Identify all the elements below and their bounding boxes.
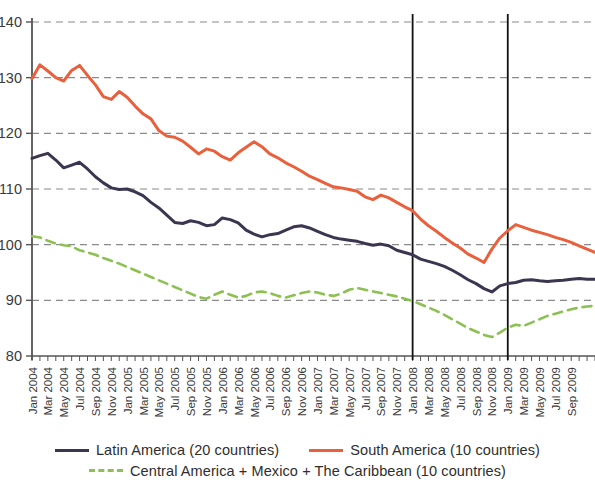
x-axis-label-jan-2009: Jan 2009 bbox=[502, 367, 514, 414]
x-axis-label-jul-2009: Jul 2009 bbox=[550, 367, 562, 410]
x-axis-label-jan-2005: Jan 2005 bbox=[122, 367, 134, 414]
chart-container: 8090100110120130140Jan 2004Mar 2004May 2… bbox=[0, 0, 595, 493]
legend-label-central-america: Central America + Mexico + The Caribbean… bbox=[130, 464, 506, 479]
x-axis-label-nov-2006: Nov 2006 bbox=[296, 367, 308, 416]
legend-row-1: Latin America (20 countries) South Ameri… bbox=[0, 443, 595, 458]
x-axis-label-sep-2006: Sep 2006 bbox=[280, 367, 292, 416]
series-line-south-america bbox=[32, 65, 595, 263]
x-axis-label-jan-2006: Jan 2006 bbox=[217, 367, 229, 414]
x-axis-label-may-2005: May 2005 bbox=[153, 367, 165, 418]
x-axis-label-jul-2004: Jul 2004 bbox=[74, 366, 86, 410]
x-axis-label-jul-2005: Jul 2005 bbox=[169, 367, 181, 410]
x-axis-label-sep-2009: Sep 2009 bbox=[566, 367, 578, 416]
x-axis-label-may-2008: May 2008 bbox=[439, 367, 451, 418]
y-axis-label-140: 140 bbox=[0, 14, 22, 30]
y-axis-label-80: 80 bbox=[6, 348, 22, 364]
x-axis-label-jan-2008: Jan 2008 bbox=[407, 367, 419, 414]
x-axis-label-jul-2007: Jul 2007 bbox=[360, 367, 372, 410]
legend-item-south-america[interactable]: South America (10 countries) bbox=[309, 443, 540, 458]
legend-label-latin-america: Latin America (20 countries) bbox=[96, 443, 279, 458]
legend-item-central-america[interactable]: Central America + Mexico + The Caribbean… bbox=[89, 464, 506, 479]
x-axis-label-sep-2005: Sep 2005 bbox=[185, 367, 197, 416]
legend-item-latin-america[interactable]: Latin America (20 countries) bbox=[55, 443, 279, 458]
x-axis-label-nov-2005: Nov 2005 bbox=[201, 367, 213, 416]
x-axis-label-may-2007: May 2007 bbox=[344, 367, 356, 418]
x-axis-label-sep-2007: Sep 2007 bbox=[375, 367, 387, 416]
x-axis-label-jan-2007: Jan 2007 bbox=[312, 367, 324, 414]
x-axis-label-mar-2008: Mar 2008 bbox=[423, 367, 435, 416]
y-axis-label-100: 100 bbox=[0, 237, 22, 253]
x-axis-label-mar-2007: Mar 2007 bbox=[328, 367, 340, 416]
x-axis-label-may-2009: May 2009 bbox=[534, 367, 546, 418]
line-chart: 8090100110120130140Jan 2004Mar 2004May 2… bbox=[0, 0, 595, 443]
legend-row-2: Central America + Mexico + The Caribbean… bbox=[0, 464, 595, 479]
legend-label-south-america: South America (10 countries) bbox=[350, 443, 540, 458]
x-axis-label-may-2006: May 2006 bbox=[249, 367, 261, 418]
y-axis-label-120: 120 bbox=[0, 125, 22, 141]
x-axis-label-nov-2007: Nov 2007 bbox=[391, 367, 403, 416]
x-axis-label-nov-2008: Nov 2008 bbox=[486, 367, 498, 416]
x-axis-label-mar-2005: Mar 2005 bbox=[138, 367, 150, 416]
x-axis-label-mar-2004: Mar 2004 bbox=[42, 366, 54, 415]
x-axis-label-sep-2004: Sep 2004 bbox=[90, 366, 102, 416]
x-axis-label-jan-2004: Jan 2004 bbox=[27, 366, 39, 414]
series-line-central-america-+-mexico-+-the-caribbean bbox=[32, 236, 595, 337]
y-axis-label-130: 130 bbox=[0, 70, 22, 86]
chart-legend: Latin America (20 countries) South Ameri… bbox=[0, 443, 595, 484]
series-line-latin-america bbox=[32, 153, 595, 292]
x-axis-label-nov-2004: Nov 2004 bbox=[106, 366, 118, 416]
x-axis-label-sep-2008: Sep 2008 bbox=[471, 367, 483, 416]
x-axis-label-may-2004: May 2004 bbox=[58, 366, 70, 417]
x-axis-label-mar-2006: Mar 2006 bbox=[233, 367, 245, 416]
x-axis-label-jul-2006: Jul 2006 bbox=[264, 367, 276, 410]
legend-swatch-south-america bbox=[309, 449, 343, 452]
y-axis-label-90: 90 bbox=[6, 292, 22, 308]
legend-swatch-latin-america bbox=[55, 449, 89, 452]
y-axis-label-110: 110 bbox=[0, 181, 22, 197]
legend-swatch-central-america bbox=[89, 469, 123, 472]
x-axis-label-jul-2008: Jul 2008 bbox=[455, 367, 467, 410]
x-axis-label-mar-2009: Mar 2009 bbox=[518, 367, 530, 416]
